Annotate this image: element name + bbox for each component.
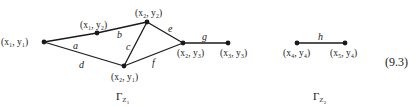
edge-label-h: h	[318, 31, 323, 42]
edge-label-d: d	[79, 59, 85, 70]
edge-e	[147, 22, 183, 43]
node-label-x2-y1: (x₂, y₁)	[111, 72, 138, 83]
edge-label-f: f	[152, 57, 156, 68]
caption-gamma-z1: ΓZ1	[116, 90, 130, 105]
edge-d	[44, 42, 124, 66]
edge-label-g: g	[202, 31, 207, 42]
edge-label-a: a	[73, 40, 78, 51]
node-x3-y3	[226, 41, 231, 46]
node-x5-y4	[343, 41, 348, 46]
node-label-x2-y2: (x₂, y₂)	[135, 8, 162, 19]
equation-number: (9.3)	[385, 55, 408, 69]
edge-label-e: e	[168, 23, 173, 34]
edge-label-b: b	[117, 29, 122, 40]
node-x2-y1	[122, 64, 127, 69]
node-x1-y1	[42, 40, 47, 45]
graph-gamma-z1	[44, 22, 228, 66]
graph-diagram: (x₁, y₁) (x₁, y₂) (x₂, y₂) (x₂, y₁) (x₂,…	[0, 0, 419, 107]
edge-label-c: c	[126, 41, 131, 52]
node-label-x1-y2: (x₁, y₂)	[80, 20, 107, 31]
node-x2-y3	[181, 41, 186, 46]
node-label-x5-y4: (x₅, y₄)	[330, 48, 357, 59]
node-label-x4-y4: (x₄, y₄)	[283, 48, 310, 59]
edge-a	[44, 33, 97, 42]
caption-gamma-z2: ΓZ2	[313, 90, 327, 105]
node-x1-y2	[95, 31, 100, 36]
node-x4-y4	[295, 41, 300, 46]
node-label-x1-y1: (x₁, y₁)	[1, 37, 28, 48]
node-label-x3-y3: (x₃, y₃)	[220, 48, 247, 59]
node-label-x2-y3: (x₂, y₃)	[177, 48, 204, 59]
node-x2-y2	[145, 20, 150, 25]
